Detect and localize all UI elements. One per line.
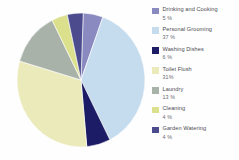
legend-swatch-icon [152, 87, 159, 94]
legend-text-block: Personal Grooming 37 % [163, 26, 239, 42]
legend-item-drinking-and-cooking[interactable]: Drinking and Cooking 5 % [152, 6, 238, 24]
legend-item-garden-watering[interactable]: Garden Watering 4 % [152, 125, 238, 143]
legend-text-block: Garden Watering 4 % [163, 125, 239, 141]
legend-item-laundry[interactable]: Laundry 13 % [152, 86, 238, 104]
legend-swatch-icon [152, 127, 159, 134]
legend-text-block: Laundry 13 % [163, 86, 239, 102]
legend-swatch-icon [152, 107, 159, 114]
legend-value: 13 % [163, 94, 239, 102]
legend-text-block: Toilet Flush 31% [163, 66, 239, 82]
legend-label: Garden Watering [163, 125, 239, 133]
pie-chart-graphic [16, 12, 146, 148]
legend-label: Toilet Flush [163, 66, 239, 74]
pie-chart-figure: Drinking and Cooking 5 % Personal Groomi… [0, 0, 239, 160]
legend-swatch-icon [152, 47, 159, 54]
legend-item-personal-grooming[interactable]: Personal Grooming 37 % [152, 26, 238, 44]
pie-slice-group [17, 13, 145, 147]
legend-swatch-icon [152, 67, 159, 74]
legend-value: 4 % [163, 134, 239, 142]
pie-svg [16, 12, 146, 148]
legend-item-toilet-flush[interactable]: Toilet Flush 31% [152, 66, 238, 84]
legend-label: Drinking and Cooking [163, 6, 239, 14]
legend-value: 5 % [163, 15, 239, 23]
legend-text-block: Drinking and Cooking 5 % [163, 6, 239, 22]
legend-value: 31% [163, 74, 239, 82]
legend-value: 37 % [163, 34, 239, 42]
legend-label: Personal Grooming [163, 26, 239, 34]
legend-label: Cleaning [163, 105, 239, 113]
legend-item-washing-dishes[interactable]: Washing Dishes 6 % [152, 46, 238, 64]
chart-legend: Drinking and Cooking 5 % Personal Groomi… [152, 6, 238, 156]
legend-swatch-icon [152, 27, 159, 34]
legend-label: Washing Dishes [163, 46, 239, 54]
legend-swatch-icon [152, 8, 159, 15]
legend-value: 4 % [163, 114, 239, 122]
legend-text-block: Cleaning 4 % [163, 105, 239, 121]
legend-value: 6 % [163, 54, 239, 62]
legend-label: Laundry [163, 86, 239, 94]
legend-text-block: Washing Dishes 6 % [163, 46, 239, 62]
legend-item-cleaning[interactable]: Cleaning 4 % [152, 105, 238, 123]
